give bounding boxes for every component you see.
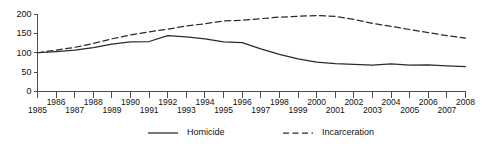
y-tick-label: 100 — [16, 48, 31, 58]
x-tick-label: 2003 — [363, 105, 382, 115]
x-tick-label: 1994 — [196, 97, 215, 107]
legend-label-incarceration: Incarceration — [322, 127, 374, 137]
x-tick-label: 2005 — [400, 105, 419, 115]
x-tick-label: 2004 — [382, 97, 401, 107]
x-tick-label: 2002 — [344, 97, 363, 107]
series-line-homicide — [38, 36, 466, 67]
line-chart: 050100150200 198519861987198819891990199… — [0, 0, 484, 147]
chart-canvas: 050100150200 198519861987198819891990199… — [0, 0, 484, 147]
x-tick-label: 1990 — [121, 97, 140, 107]
x-tick-label: 1989 — [102, 105, 121, 115]
x-tick-label: 1993 — [177, 105, 196, 115]
x-tick-label: 1997 — [251, 105, 270, 115]
x-tick-label: 1991 — [140, 105, 159, 115]
y-tick-label: 150 — [16, 28, 31, 38]
y-tick-label: 200 — [16, 9, 31, 19]
x-tick-label: 2006 — [419, 97, 438, 107]
x-tick-label: 1995 — [214, 105, 233, 115]
y-tick-label: 0 — [26, 86, 31, 96]
x-tick-label: 2001 — [326, 105, 345, 115]
x-tick-label: 1992 — [158, 97, 177, 107]
series-group — [38, 16, 466, 67]
x-tick-label: 1999 — [289, 105, 308, 115]
legend-label-homicide: Homicide — [187, 127, 225, 137]
chart-legend: HomicideIncarceration — [148, 127, 374, 137]
y-axis: 050100150200 — [16, 9, 37, 97]
x-axis: 1985198619871988198919901991199219931994… — [28, 92, 475, 115]
x-tick-label: 2007 — [437, 105, 456, 115]
series-line-incarceration — [38, 16, 466, 53]
x-tick-label: 1987 — [65, 105, 84, 115]
y-tick-label: 50 — [21, 67, 31, 77]
x-tick-label: 2008 — [456, 97, 475, 107]
x-tick-label: 1985 — [28, 105, 47, 115]
x-tick-label: 2000 — [307, 97, 326, 107]
x-tick-label: 1988 — [84, 97, 103, 107]
x-tick-label: 1986 — [47, 97, 66, 107]
x-tick-label: 1996 — [233, 97, 252, 107]
x-tick-label: 1998 — [270, 97, 289, 107]
